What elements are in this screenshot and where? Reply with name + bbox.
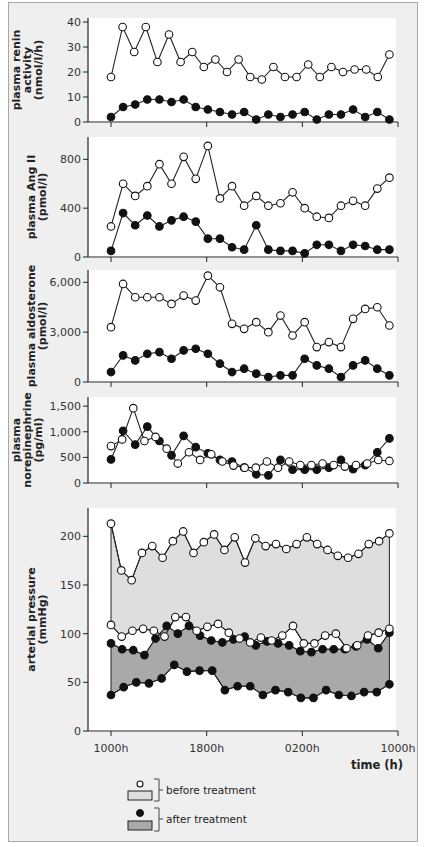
data-point	[344, 554, 352, 562]
y-axis-label: (nmol/l/h)	[32, 40, 45, 100]
data-point	[163, 622, 171, 630]
data-point	[324, 546, 332, 554]
data-point	[289, 372, 297, 380]
y-tick-label: 500	[60, 451, 81, 464]
data-point	[131, 357, 139, 365]
data-point	[120, 683, 128, 691]
data-point	[214, 620, 222, 628]
data-point	[204, 106, 212, 114]
data-point	[285, 642, 293, 650]
legend-before-text: before treatment	[166, 784, 256, 796]
data-point	[185, 448, 193, 456]
data-point	[188, 48, 196, 56]
data-point	[352, 461, 360, 469]
data-point	[349, 197, 357, 205]
data-point	[313, 540, 321, 548]
y-tick-label: 30	[67, 41, 81, 54]
data-point	[168, 355, 176, 363]
data-point	[204, 272, 212, 280]
y-tick-label: 200	[60, 530, 81, 543]
data-point	[373, 448, 381, 456]
open-circle-marker-icon	[137, 781, 143, 787]
data-point	[156, 96, 164, 104]
legend-after-text: after treatment	[166, 813, 247, 825]
data-point	[386, 246, 394, 254]
x-tick-label: 1000h	[94, 742, 129, 755]
data-point	[180, 292, 188, 300]
data-point	[216, 195, 224, 203]
data-point	[301, 250, 309, 258]
data-point	[204, 623, 212, 631]
x-tick-label: 1800h	[189, 742, 224, 755]
data-point	[263, 458, 271, 466]
data-point	[337, 111, 345, 119]
data-point	[219, 639, 227, 647]
data-point	[196, 456, 204, 464]
data-point	[374, 73, 382, 81]
data-point	[119, 352, 127, 360]
data-point	[313, 241, 321, 249]
data-point	[130, 48, 138, 56]
data-point	[386, 116, 394, 124]
data-point	[282, 545, 290, 553]
data-point	[297, 647, 305, 655]
data-point	[139, 625, 147, 633]
data-point	[252, 221, 260, 229]
data-point	[152, 433, 160, 441]
data-point	[386, 680, 394, 688]
data-point	[363, 460, 371, 468]
data-point	[375, 537, 383, 545]
data-point	[145, 680, 153, 688]
data-point	[355, 550, 363, 558]
data-point	[313, 343, 321, 351]
data-point	[301, 318, 309, 326]
data-point	[301, 355, 309, 363]
y-tick-label: 20	[67, 66, 81, 79]
data-point	[240, 325, 248, 333]
data-point	[277, 312, 285, 320]
data-point	[293, 73, 301, 81]
y-tick-label: 0	[74, 376, 81, 389]
data-point	[349, 241, 357, 249]
y-tick-label: 400	[60, 202, 81, 215]
data-point	[265, 373, 273, 381]
data-point	[131, 192, 139, 200]
data-point	[119, 209, 127, 217]
y-tick-label: 10	[67, 91, 81, 104]
data-point	[297, 461, 305, 469]
data-point	[174, 460, 182, 468]
data-point	[144, 350, 152, 358]
data-point	[386, 174, 394, 182]
data-point	[277, 199, 285, 207]
data-point	[141, 437, 149, 445]
data-point	[277, 456, 285, 464]
data-point	[156, 293, 164, 301]
data-point	[144, 423, 152, 431]
y-tick-label: 40	[67, 16, 81, 29]
y-tick-label: 0	[74, 251, 81, 264]
data-point	[373, 185, 381, 193]
data-point	[180, 347, 188, 355]
data-point	[337, 343, 345, 351]
data-point	[279, 632, 287, 640]
data-point	[373, 108, 381, 116]
data-point	[170, 661, 178, 669]
data-point	[129, 404, 137, 412]
data-point	[161, 633, 169, 641]
legend: before treatmentafter treatment	[128, 779, 256, 831]
data-point	[281, 73, 289, 81]
data-point	[240, 108, 248, 116]
data-point	[313, 116, 321, 124]
panel-4: 05001,0001,500plasmanorepinephrine(pg/ml…	[10, 392, 398, 490]
data-point	[141, 651, 149, 659]
data-point	[337, 202, 345, 210]
data-point	[297, 694, 305, 702]
data-point	[168, 180, 176, 188]
data-point	[223, 68, 231, 76]
data-point	[374, 456, 382, 464]
data-point	[361, 357, 369, 365]
y-axis-label: (pmol/l)	[36, 302, 49, 351]
data-point	[373, 688, 381, 696]
data-point	[365, 540, 373, 548]
data-point	[265, 246, 273, 254]
